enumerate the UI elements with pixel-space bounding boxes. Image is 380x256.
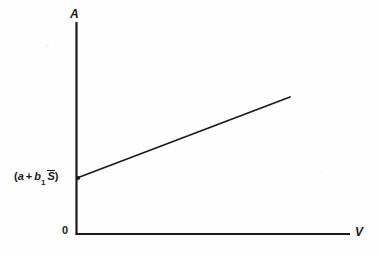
intercept-term-s-bar: S (47, 170, 54, 182)
y-axis-label: A (70, 8, 79, 20)
regression-line (77, 97, 290, 178)
axes-group (76, 22, 351, 235)
x-axis-label: V (355, 226, 363, 238)
intercept-marker-dot (76, 176, 80, 180)
data-series-group (76, 97, 290, 180)
figure-canvas: A V 0 (a+b1S) (0, 0, 380, 256)
intercept-term-b: b (34, 170, 41, 182)
intercept-term-a: a (18, 170, 24, 182)
origin-label: 0 (62, 225, 68, 236)
intercept-close-paren: ) (55, 170, 59, 182)
intercept-plus-sign: + (24, 170, 34, 182)
intercept-b-subscript: 1 (41, 178, 45, 187)
line-chart-plot (0, 0, 380, 256)
y-intercept-label: (a+b1S) (14, 170, 58, 185)
